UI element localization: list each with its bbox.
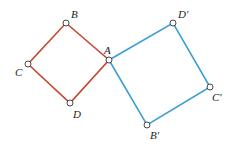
red-square	[28, 23, 109, 103]
point-b-prime	[144, 122, 150, 128]
label-c: C	[15, 67, 22, 78]
label-b: B	[71, 9, 78, 20]
label-a: A	[104, 45, 111, 56]
point-d-prime	[170, 20, 176, 26]
point-c	[25, 61, 31, 67]
point-b	[63, 20, 69, 26]
label-d-prime: D′	[178, 9, 188, 20]
label-b-prime: B′	[150, 130, 159, 141]
diagram-canvas: B C D A D′ C′ B′	[0, 0, 232, 148]
point-a	[106, 57, 112, 63]
blue-square	[109, 23, 210, 125]
squares-figure	[0, 0, 232, 148]
label-d: D	[73, 109, 81, 120]
label-c-prime: C′	[212, 92, 222, 103]
point-c-prime	[207, 84, 213, 90]
point-d	[67, 100, 73, 106]
